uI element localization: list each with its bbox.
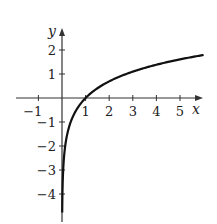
- x-tick-label: 4: [152, 104, 160, 119]
- y-tick-label: −1: [37, 115, 56, 130]
- x-tick-label: 2: [105, 104, 113, 119]
- y-tick-label: 2: [48, 43, 56, 58]
- y-tick-label: 1: [48, 67, 56, 82]
- x-tick-label: 3: [129, 104, 137, 119]
- y-tick-label: −4: [37, 187, 56, 202]
- y-axis-arrow-icon: [59, 28, 65, 36]
- x-axis-label: x: [192, 101, 200, 117]
- tick-labels: −11234521−1−2−3−4: [23, 43, 184, 202]
- y-tick-label: −3: [37, 163, 56, 178]
- y-axis-label: y: [47, 23, 57, 39]
- ticks: [38, 50, 180, 194]
- y-tick-label: −2: [37, 139, 56, 154]
- ln-curve: [62, 55, 203, 212]
- x-tick-label: 5: [176, 104, 184, 119]
- log-function-chart: −11234521−1−2−3−4 x y: [0, 0, 217, 224]
- x-tick-label: 1: [81, 104, 89, 119]
